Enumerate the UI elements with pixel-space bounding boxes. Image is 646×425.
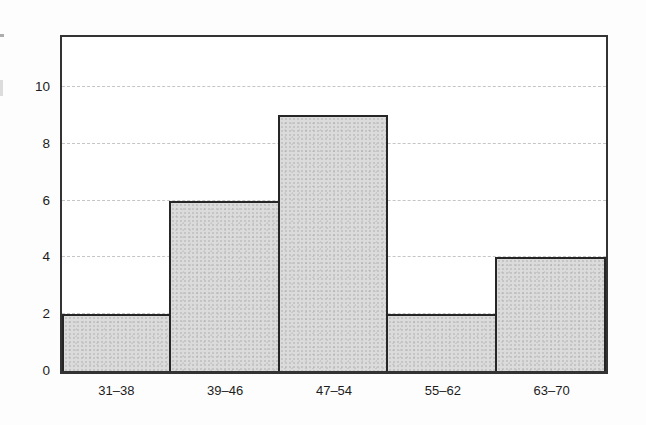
scan-edge-artifact xyxy=(0,34,4,37)
y-tick-label: 2 xyxy=(0,306,50,322)
y-tick-label: 4 xyxy=(0,249,50,265)
y-tick-label: 0 xyxy=(0,363,50,379)
histogram-bar-31–38 xyxy=(62,314,171,371)
histogram-bar-39–46 xyxy=(169,201,280,371)
y-tick-label: 8 xyxy=(0,136,50,152)
histogram-bar-55–62 xyxy=(386,314,497,371)
plot-inner xyxy=(62,37,606,371)
x-tick-label: 31–38 xyxy=(98,383,134,398)
x-tick-label: 55–62 xyxy=(425,383,461,398)
histogram-figure: 0246810 31–3839–4647–5455–6263–70 xyxy=(0,0,646,425)
x-tick-label: 47–54 xyxy=(316,383,352,398)
y-tick-label: 10 xyxy=(0,79,50,95)
histogram-bar-63–70 xyxy=(495,257,606,371)
x-tick-label: 39–46 xyxy=(207,383,243,398)
gridline-y-10 xyxy=(62,86,606,87)
plot-area xyxy=(60,35,608,374)
y-tick-label: 6 xyxy=(0,193,50,209)
x-tick-label: 63–70 xyxy=(534,383,570,398)
histogram-bar-47–54 xyxy=(278,115,389,371)
